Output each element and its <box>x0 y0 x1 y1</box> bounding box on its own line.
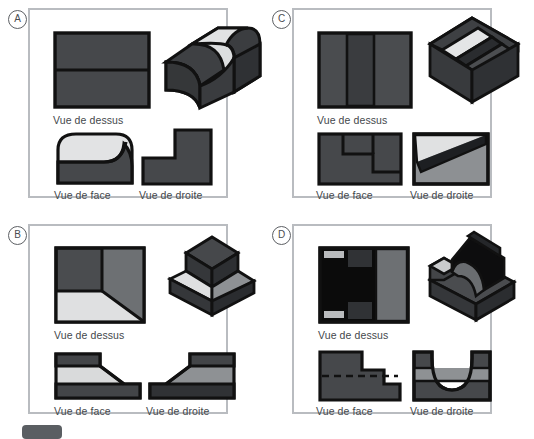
panel-a: A Vue de dessus <box>8 4 263 209</box>
panel-d-front-caption: Vue de face <box>316 405 373 417</box>
panel-a-front-view <box>56 132 136 185</box>
panel-c-top-view <box>317 31 413 109</box>
panel-c-front-caption: Vue de face <box>316 189 373 201</box>
panel-d-right-view <box>412 348 492 402</box>
panel-d-front-view <box>318 348 402 402</box>
panel-a-top-caption: Vue de dessus <box>53 114 123 126</box>
panel-d-isometric <box>422 226 524 326</box>
panel-b-letter: B <box>8 226 27 245</box>
footer-badge <box>22 425 62 439</box>
panel-a-right-view <box>141 128 213 186</box>
panel-b-front-view <box>54 348 142 400</box>
panel-a-top-view <box>53 31 151 109</box>
panel-b: B Vue de dessus <box>8 220 263 425</box>
panel-a-isometric <box>156 12 264 112</box>
panel-b-top-caption: Vue de dessus <box>54 329 124 341</box>
panel-c-right-view <box>412 132 490 186</box>
panel-d-right-caption: Vue de droite <box>410 405 473 417</box>
panel-c-top-caption: Vue de dessus <box>317 114 387 126</box>
panel-c-letter: C <box>272 10 291 29</box>
panel-b-front-caption: Vue de face <box>54 405 111 417</box>
panel-c-front-view <box>317 132 403 186</box>
panel-c-right-caption: Vue de droite <box>410 189 473 201</box>
panel-a-right-caption: Vue de droite <box>139 189 202 201</box>
panel-b-right-caption: Vue de droite <box>146 405 209 417</box>
panel-b-right-view <box>148 348 236 400</box>
panel-d-letter: D <box>272 226 291 245</box>
panel-c: C Vue de dessus <box>272 4 527 209</box>
panel-a-letter: A <box>8 10 27 29</box>
panel-b-top-view <box>54 246 146 324</box>
panel-b-isometric <box>160 225 260 325</box>
panel-a-front-caption: Vue de face <box>54 189 111 201</box>
panel-d: D Vue de dessus <box>272 220 527 425</box>
panel-d-top-view <box>318 246 410 324</box>
panel-d-top-caption: Vue de dessus <box>318 329 388 341</box>
panel-c-isometric <box>422 10 526 110</box>
